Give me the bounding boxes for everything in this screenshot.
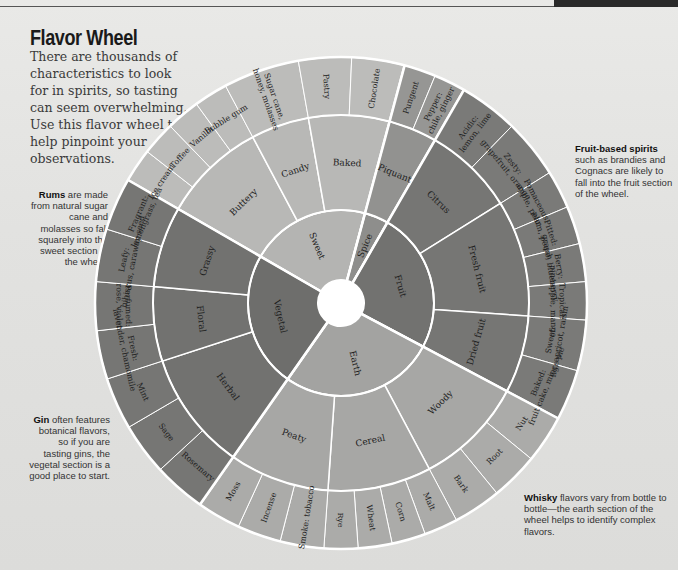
flavor-label: Pastry xyxy=(321,73,332,99)
wheel-center-hole xyxy=(318,280,364,326)
subcategory-label-baked: Baked xyxy=(333,157,362,168)
flavor-label-text: Pastry xyxy=(321,73,332,99)
flavor-wheel: SweetButteryIce creamToffeeVanillaBubble… xyxy=(0,0,678,570)
flavor-label: Rye xyxy=(336,512,345,527)
flavor-label-text: Rye xyxy=(336,512,345,527)
subcategory-label-baked-text: Baked xyxy=(333,157,362,168)
